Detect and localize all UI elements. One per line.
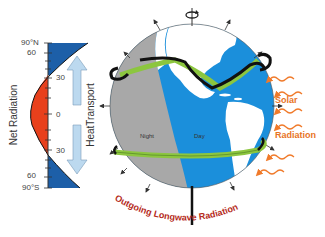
radiation-label: Radiation — [275, 130, 316, 140]
globe — [100, 10, 274, 200]
tick-90n: 90°N — [21, 38, 39, 47]
tick-60n: 60 — [27, 48, 36, 57]
day-label: Day — [194, 133, 205, 139]
tick-90s: 90°S — [22, 183, 39, 192]
tick-60s: 60 — [27, 171, 36, 180]
arrow-up-icon — [67, 56, 87, 105]
tick-30s: 30 — [56, 146, 65, 155]
night-label: Night — [140, 133, 154, 139]
tick-30n: 30 — [56, 73, 65, 82]
heat-transport-arrows — [67, 56, 87, 174]
arrow-down-icon — [67, 125, 87, 174]
heat-transport-title: HeatTransport — [85, 83, 96, 147]
solar-label: Solar — [275, 95, 298, 105]
outgoing-longwave-label: Outgoing Longwave Radiation — [113, 193, 239, 223]
net-radiation-title: Net Radiation — [8, 85, 19, 146]
tick-0: 0 — [56, 110, 61, 119]
climate-diagram: 90°N 60 30 0 30 60 90°S Net Radiation He… — [0, 0, 325, 237]
